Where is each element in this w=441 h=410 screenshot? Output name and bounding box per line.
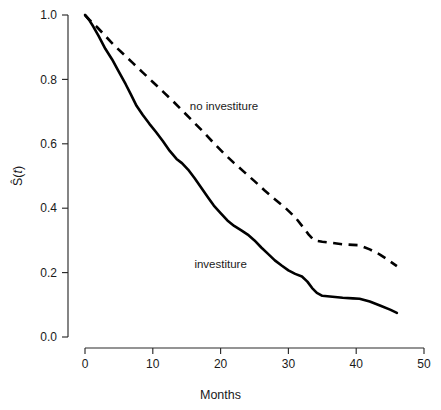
y-axis-tick-label: 0.6	[40, 137, 57, 151]
x-axis-tick-label: 30	[282, 357, 296, 371]
y-title-suffix: )	[11, 166, 25, 170]
x-axis-tick-label: 50	[417, 357, 431, 371]
x-axis-tick-label: 10	[146, 357, 160, 371]
y-axis-tick-label: 0.4	[40, 201, 57, 215]
y-axis-title-group: Ŝ(t)	[10, 166, 25, 186]
series-label: investiture	[194, 258, 246, 270]
y-axis-tick-label: 0.0	[40, 330, 57, 344]
x-axis-tick-label: 20	[214, 357, 228, 371]
y-axis-title: Ŝ(t)	[10, 166, 25, 186]
survival-curve-figure: 0.00.20.40.60.81.0 01020304050 no invest…	[0, 0, 441, 410]
x-axis-title: Months	[200, 388, 241, 402]
y-axis-tick-label: 1.0	[40, 8, 57, 22]
y-axis-tick-label: 0.2	[40, 266, 57, 280]
series-label: no investiture	[190, 100, 258, 112]
y-axis-tick-label: 0.8	[40, 73, 57, 87]
x-axis-tick-label: 40	[350, 357, 364, 371]
y-title-prefix: Ŝ(	[10, 173, 25, 186]
kaplan-meier-plot: 0.00.20.40.60.81.0 01020304050 no invest…	[0, 0, 441, 410]
x-axis-tick-label: 0	[82, 357, 89, 371]
